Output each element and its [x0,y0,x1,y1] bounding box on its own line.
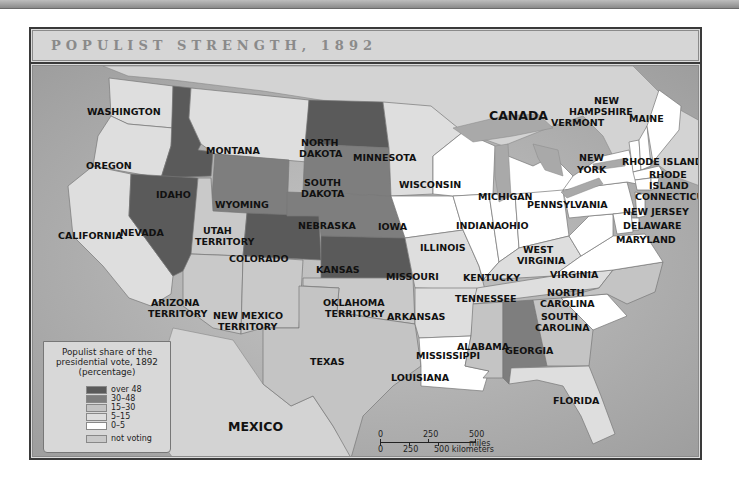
label-wv-2: VIRGINIA [517,255,566,266]
legend-swatch [86,413,107,421]
label-connecticut: CONNECTICUT [635,191,699,202]
label-virginia: VIRGINIA [550,269,599,280]
legend-swatch [86,404,107,412]
label-nc-2: CAROLINA [540,298,595,309]
label-montana: MONTANA [206,145,261,156]
label-new-jersey: NEW JERSEY [623,206,689,217]
label-oklahoma-1: OKLAHOMA [323,297,385,308]
legend-label: 15–30 [111,403,135,412]
label-massachusetts: RHODE ISLAND [622,156,699,167]
label-nevada: NEVADA [120,227,164,238]
label-wisconsin: WISCONSIN [399,179,461,190]
label-florida: FLORIDA [553,395,600,406]
label-utah-2: TERRITORY [195,236,254,247]
label-nebraska: NEBRASKA [298,220,357,231]
label-colorado: COLORADO [229,253,288,264]
label-oklahoma-2: TERRITORY [325,308,384,319]
label-wv-1: WEST [523,244,554,255]
legend-item-5-15: 5–15 [86,412,130,421]
scale-miles-250: 250 [423,430,438,439]
legend-swatch [86,435,107,443]
label-arkansas: ARKANSAS [387,311,446,322]
scale-km-250: 250 [403,445,418,454]
label-newmexico-1: NEW MEXICO [213,310,283,321]
label-wyoming: WYOMING [215,199,269,210]
legend-swatch [86,422,107,430]
label-california: CALIFORNIA [58,230,123,241]
legend-item-over-48: over 48 [86,385,142,394]
legend-label: 0–5 [111,421,125,430]
legend-item-0-5: 0–5 [86,421,125,430]
legend-item-30-48: 30–48 [86,394,135,403]
legend-item-15-30: 15–30 [86,403,135,412]
scale-tick [428,439,429,443]
legend-swatch [86,386,107,394]
label-kentucky: KENTUCKY [463,272,520,283]
label-oregon: OREGON [86,160,132,171]
label-nc-1: NORTH [547,287,584,298]
label-sc-1: SOUTH [541,311,578,322]
legend-swatch [86,395,107,403]
label-ohio: OHIO [501,220,529,231]
legend-title-line-1: Populist share of the [44,347,170,357]
label-washington: WASHINGTON [87,106,161,117]
scale-miles-0: 0 [378,430,383,439]
label-utah-1: UTAH [203,225,232,236]
label-nh-2: HAMPSHIRE [569,106,633,117]
label-michigan: MICHIGAN [478,191,533,202]
legend-item-not-voting: not voting [86,434,152,443]
scale-km-500: 500 kilometers [434,445,494,454]
label-maine: MAINE [629,113,664,124]
label-nh-1: NEW [594,95,619,106]
legend-title-line-3: (percentage) [44,367,170,377]
legend-label: not voting [111,434,152,443]
label-kansas: KANSAS [316,264,360,275]
label-pennsylvania: PENNSYLVANIA [527,199,608,210]
label-ny-1: NEW [579,152,604,163]
legend-label: over 48 [111,385,142,394]
label-tennessee: TENNESSEE [455,293,517,304]
label-ri-2: ISLAND [649,180,689,191]
label-ny-2: YORK [576,164,607,175]
label-illinois: ILLINOIS [420,242,466,253]
label-nd-2: DAKOTA [299,148,343,159]
map-legend: Populist share of the presidential vote,… [43,341,171,453]
label-texas: TEXAS [310,356,345,367]
label-canada: CANADA [489,108,548,123]
label-missouri: MISSOURI [386,271,439,282]
label-delaware: DELAWARE [623,220,682,231]
label-sd-1: SOUTH [304,177,341,188]
label-sc-2: CAROLINA [535,322,590,333]
scale-km-0: 0 [378,445,383,454]
label-vermont: VERMONT [551,117,605,128]
label-alabama: ALABAMA [457,341,510,352]
label-mexico: MEXICO [228,419,283,434]
label-nd-1: NORTH [301,137,338,148]
map-title-bar: POPULIST STRENGTH, 1892 [32,30,699,61]
label-georgia: GEORGIA [505,345,554,356]
map-title: POPULIST STRENGTH, 1892 [51,38,377,53]
title-separator [31,62,700,64]
legend-title: Populist share of the presidential vote,… [44,347,170,377]
label-ri-1: RHODE [649,169,687,180]
legend-title-line-2: presidential vote, 1892 [44,357,170,367]
scale-tick [475,439,476,443]
label-arizona-1: ARIZONA [151,297,200,308]
legend-label: 30–48 [111,394,135,403]
legend-label: 5–15 [111,412,130,421]
label-idaho: IDAHO [156,189,191,200]
label-louisiana: LOUISIANA [391,372,450,383]
label-minnesota: MINNESOTA [353,152,417,163]
label-maryland: MARYLAND [616,234,676,245]
label-sd-2: DAKOTA [301,188,345,199]
label-iowa: IOWA [378,221,408,232]
scale-bar: 0 250 500 miles 0 250 500 kilometers [378,430,508,460]
top-toolbar-strip [0,0,739,9]
label-newmexico-2: TERRITORY [218,321,277,332]
label-arizona-2: TERRITORY [148,308,207,319]
label-indiana: INDIANA [456,220,502,231]
